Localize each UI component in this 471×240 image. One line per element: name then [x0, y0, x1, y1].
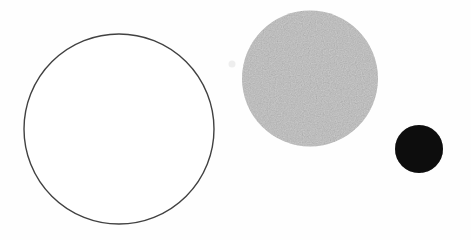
- gray-filled-circle: [242, 11, 378, 147]
- black-filled-circle: [395, 125, 443, 173]
- scan-speck: [229, 61, 236, 68]
- three-circles-figure: [0, 0, 471, 240]
- outlined-circle: [24, 34, 214, 224]
- figure-canvas: [0, 0, 471, 240]
